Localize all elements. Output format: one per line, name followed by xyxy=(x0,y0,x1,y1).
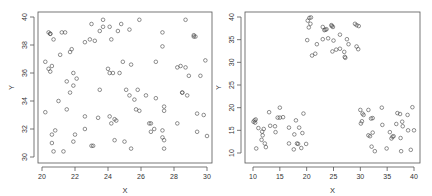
data-point xyxy=(44,110,48,114)
data-point xyxy=(356,47,360,51)
data-point xyxy=(70,47,74,51)
data-point xyxy=(373,149,377,153)
y-tick-label: 15 xyxy=(228,126,235,134)
y-axis: 303234363840 xyxy=(21,13,34,161)
data-point xyxy=(106,67,110,71)
data-point xyxy=(162,109,166,113)
data-point xyxy=(287,126,291,130)
data-point xyxy=(108,25,112,29)
data-point xyxy=(264,145,268,149)
data-point xyxy=(52,38,56,42)
data-point xyxy=(371,131,375,135)
data-point xyxy=(411,105,415,109)
x-tick-label: 15 xyxy=(276,173,284,180)
y-tick-label: 38 xyxy=(21,41,28,49)
data-point xyxy=(154,60,158,64)
x-tick-label: 20 xyxy=(38,173,46,180)
data-point xyxy=(185,94,189,98)
x-tick-label: 22 xyxy=(71,173,79,180)
data-point xyxy=(58,53,62,57)
data-point xyxy=(199,74,203,78)
x-axis-title: X xyxy=(330,186,335,195)
data-point xyxy=(72,84,76,88)
data-point xyxy=(116,29,120,33)
data-point xyxy=(48,70,52,74)
y-tick-label: 35 xyxy=(228,36,235,44)
data-point xyxy=(179,64,183,68)
y-axis: 10152025303540 xyxy=(228,13,241,157)
data-point xyxy=(161,129,165,133)
data-point xyxy=(326,37,330,41)
y-tick-label: 10 xyxy=(228,149,235,157)
data-point xyxy=(110,122,114,126)
data-point xyxy=(161,45,165,49)
data-point xyxy=(180,91,184,95)
x-tick-label: 30 xyxy=(356,173,364,180)
data-point xyxy=(307,26,311,30)
data-point xyxy=(101,18,105,22)
data-point xyxy=(338,47,342,51)
data-point xyxy=(357,24,361,28)
data-point xyxy=(412,129,416,133)
data-point xyxy=(72,140,76,144)
data-point xyxy=(294,119,298,123)
data-point xyxy=(184,18,188,22)
scatter-plot-right: 10152025303540X10152025303540Y xyxy=(216,0,432,196)
data-point xyxy=(57,99,61,103)
data-point xyxy=(399,149,403,153)
data-point xyxy=(136,88,140,92)
data-point xyxy=(315,42,319,46)
data-point xyxy=(50,141,54,145)
data-point xyxy=(360,119,364,123)
data-point xyxy=(274,130,278,134)
x-tick-label: 40 xyxy=(410,173,418,180)
data-point xyxy=(399,136,403,140)
data-point xyxy=(205,134,209,138)
data-point xyxy=(50,64,54,68)
data-point xyxy=(254,147,258,151)
data-point xyxy=(273,124,277,128)
data-points xyxy=(252,16,416,153)
x-tick-label: 10 xyxy=(249,173,257,180)
y-tick-label: 36 xyxy=(21,69,28,77)
data-point xyxy=(98,29,102,33)
data-point xyxy=(195,130,199,134)
data-point xyxy=(305,38,309,42)
data-point xyxy=(292,148,296,152)
data-point xyxy=(96,116,100,120)
data-points xyxy=(44,18,209,153)
data-point xyxy=(370,145,374,149)
data-point xyxy=(184,66,188,70)
data-point xyxy=(278,106,282,110)
data-point xyxy=(83,40,87,44)
data-point xyxy=(162,147,166,151)
scatter-plot-left: 202224262830X303234363840Y xyxy=(0,0,216,196)
data-point xyxy=(304,142,308,146)
data-point xyxy=(113,138,117,142)
plot-frame xyxy=(245,12,420,163)
data-point xyxy=(301,131,305,135)
data-point xyxy=(52,150,56,154)
data-point xyxy=(50,133,54,137)
data-point xyxy=(334,48,338,52)
data-point xyxy=(261,134,265,138)
y-tick-label: 40 xyxy=(228,13,235,21)
data-point xyxy=(257,126,261,130)
data-point xyxy=(302,112,306,116)
data-point xyxy=(62,150,66,154)
y-axis-title: Y xyxy=(7,85,16,90)
data-point xyxy=(72,71,76,75)
data-point xyxy=(144,94,148,98)
y-tick-label: 30 xyxy=(21,153,28,161)
data-point xyxy=(347,42,351,46)
data-point xyxy=(129,63,133,67)
data-point xyxy=(267,110,271,114)
data-point xyxy=(359,108,363,112)
data-point xyxy=(367,108,371,112)
data-point xyxy=(44,60,48,64)
data-point xyxy=(161,31,165,35)
x-tick-label: 25 xyxy=(330,173,338,180)
data-point xyxy=(202,113,206,117)
data-point xyxy=(83,127,87,131)
data-point xyxy=(124,88,128,92)
